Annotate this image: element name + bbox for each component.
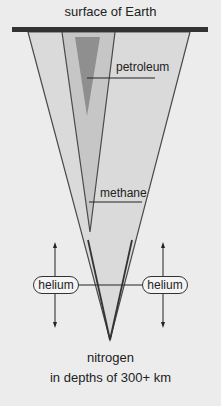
surface-bar [12, 27, 208, 32]
cone-graphic [0, 0, 221, 406]
depth-label: in depths of 300+ km [0, 370, 221, 385]
nitrogen-label: nitrogen [0, 350, 221, 365]
methane-label: methane [100, 186, 147, 200]
helium-label-right: helium [142, 276, 188, 294]
petroleum-label: petroleum [116, 60, 169, 74]
surface-of-earth-label: surface of Earth [0, 4, 221, 19]
helium-label-left: helium [33, 276, 79, 294]
diagram: surface of Earth petroleum methane heliu… [0, 0, 221, 406]
